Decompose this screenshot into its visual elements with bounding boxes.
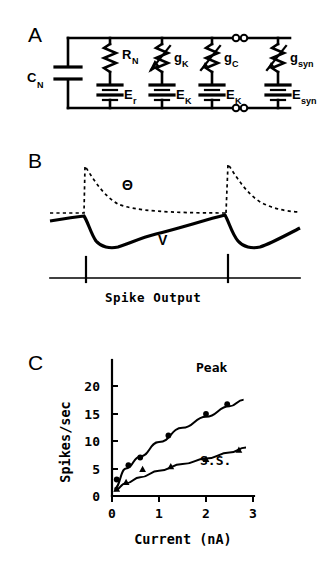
branch-capacitance: C N (27, 38, 81, 108)
resistor-rn-sublabel: N (132, 56, 139, 66)
branch-calcium-activated: g C E K (200, 38, 242, 108)
series-label-ss: S.S. (200, 453, 231, 468)
battery-er-sublabel: r (133, 96, 137, 106)
conductance-gc-sublabel: C (232, 59, 239, 69)
data-point (137, 455, 143, 461)
y-ticklabel-0: 0 (92, 489, 100, 504)
y-ticklabel-15: 15 (84, 407, 100, 422)
conductance-gk-sublabel: K (182, 59, 189, 69)
data-point (224, 401, 230, 407)
conductance-gk-label: g (174, 50, 182, 65)
conductance-gc-label: g (224, 50, 232, 65)
panel-b-traces: B Θ V Spike Output (0, 130, 331, 310)
theta-label: Θ (122, 177, 133, 193)
battery-esyn-label: E (292, 87, 301, 102)
panel-b-letter: B (28, 149, 42, 172)
conductance-gsyn-label: g (290, 50, 298, 65)
y-ticklabel-20: 20 (84, 379, 100, 394)
panel-c-chart: C 0 5 10 15 20 0 1 2 3 Spikes/sec (0, 310, 331, 572)
battery-ek2-sublabel: K (235, 96, 242, 106)
branch-synaptic: g syn E syn (266, 38, 317, 108)
figure-root: A C N (0, 0, 331, 572)
x-ticklabel-3: 3 (249, 506, 257, 521)
data-point (236, 446, 243, 452)
data-point (139, 466, 146, 472)
y-ticklabel-5: 5 (92, 462, 100, 477)
x-ticklabel-2: 2 (202, 506, 210, 521)
x-ticklabel-1: 1 (155, 506, 163, 521)
series-peak (114, 400, 244, 489)
y-ticklabel-10: 10 (84, 434, 100, 449)
data-point (125, 462, 131, 468)
y-axis-title: Spikes/sec (57, 401, 73, 482)
capacitor-sublabel: N (37, 80, 44, 90)
branch-potassium: g K E K (150, 38, 192, 108)
capacitor-label: C (27, 70, 37, 85)
voltage-trace (50, 215, 300, 248)
branch-leak: R N E r (98, 38, 139, 108)
battery-ek1-label: E (176, 87, 185, 102)
battery-ek2-label: E (226, 87, 235, 102)
data-point (114, 477, 120, 483)
battery-ek1-sublabel: K (185, 96, 192, 106)
data-point (203, 411, 209, 417)
theta-trace (50, 164, 300, 213)
battery-er-label: E (124, 87, 133, 102)
x-axis-title: Current (nA) (134, 531, 232, 547)
battery-esyn-sublabel: syn (301, 96, 317, 106)
panel-a-circuit: A C N (0, 0, 331, 130)
panel-c-letter: C (28, 351, 43, 374)
spike-output-caption: Spike Output (105, 290, 201, 305)
voltage-label: V (158, 232, 168, 248)
x-ticklabel-0: 0 (108, 506, 116, 521)
data-point (166, 433, 172, 439)
resistor-rn-label: R (122, 47, 132, 62)
spike-output-axis (50, 255, 300, 282)
panel-a-letter: A (28, 23, 42, 46)
conductance-gsyn-sublabel: syn (298, 59, 314, 69)
series-label-peak: Peak (196, 360, 227, 375)
